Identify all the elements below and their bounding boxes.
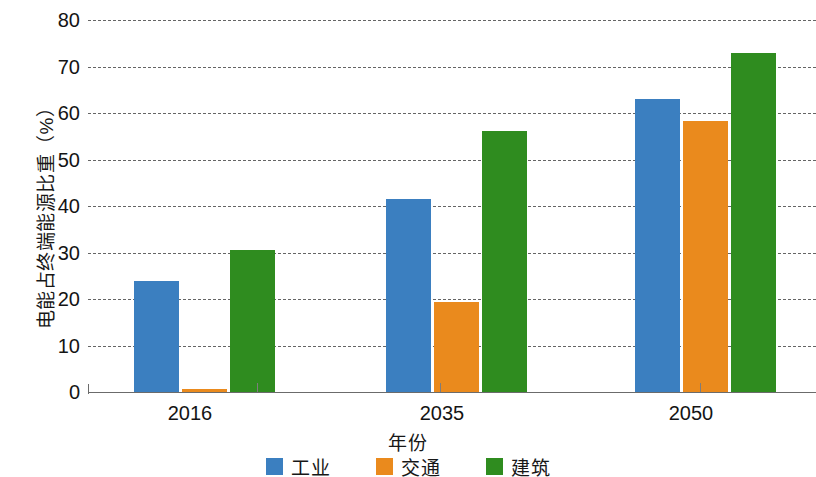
y-axis-tick-label: 10 xyxy=(20,334,80,357)
y-axis-tick-label: 20 xyxy=(20,288,80,311)
bar-2035-建筑 xyxy=(482,131,527,392)
legend-swatch-buildings xyxy=(486,458,503,475)
x-axis-group-label-2050: 2050 xyxy=(631,402,751,425)
x-axis-group-label-2035: 2035 xyxy=(382,402,502,425)
gridline xyxy=(88,113,816,114)
chart-legend: 工业交通建筑 xyxy=(0,453,816,477)
legend-item-建筑[interactable]: 建筑 xyxy=(486,453,550,477)
plot-area: 01020304050607080 201620352050 xyxy=(88,20,816,392)
y-axis-tick-label: 40 xyxy=(20,195,80,218)
y-axis-line xyxy=(88,384,89,394)
legend-item-工业[interactable]: 工业 xyxy=(266,453,330,477)
x-axis-line xyxy=(88,392,816,393)
x-axis-title: 年份 xyxy=(0,428,816,455)
bar-2016-建筑 xyxy=(230,250,275,392)
y-axis-tick-label: 50 xyxy=(20,148,80,171)
legend-label: 建筑 xyxy=(511,453,550,477)
bar-2050-交通 xyxy=(683,121,728,392)
legend-swatch-industry xyxy=(266,458,283,475)
legend-item-交通[interactable]: 交通 xyxy=(376,453,440,477)
gridline xyxy=(88,20,816,21)
bar-2016-工业 xyxy=(134,281,179,392)
bar-2050-建筑 xyxy=(731,53,776,392)
bar-2035-交通 xyxy=(434,302,479,392)
legend-swatch-transport xyxy=(376,458,393,475)
y-axis-tick-label: 30 xyxy=(20,241,80,264)
legend-label: 交通 xyxy=(401,453,440,477)
legend-label: 工业 xyxy=(291,453,330,477)
x-axis-group-label-2016: 2016 xyxy=(130,402,250,425)
y-axis-tick-label: 60 xyxy=(20,102,80,125)
gridline xyxy=(88,67,816,68)
y-axis-tick-label: 80 xyxy=(20,9,80,32)
y-axis-tick-label: 70 xyxy=(20,55,80,78)
bar-2035-工业 xyxy=(386,199,431,392)
bar-chart: 电能占终端能源比重（%） 01020304050607080 201620352… xyxy=(0,0,816,477)
y-axis-tick-label: 0 xyxy=(20,381,80,404)
bar-2050-工业 xyxy=(635,99,680,392)
